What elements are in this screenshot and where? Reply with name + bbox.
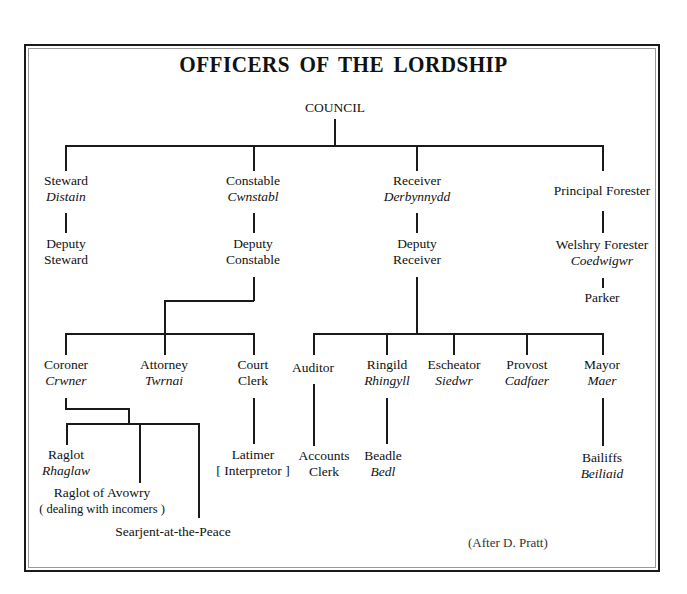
node-label: Court (238, 357, 269, 373)
connector-line (602, 278, 604, 288)
node-accounts-clerk: Accounts Clerk (299, 448, 350, 480)
connector-line (65, 145, 603, 147)
node-label: Constable (226, 252, 280, 268)
connector-line (66, 423, 68, 445)
node-deputy-receiver: Deputy Receiver (393, 236, 441, 268)
node-attorney: Attorney Twrnai (140, 357, 188, 389)
connector-line (602, 398, 604, 446)
node-label: Latimer (216, 447, 289, 463)
diagram-title: OFFICERS OF THE LORDSHIP (27, 52, 659, 78)
connector-line (334, 119, 336, 146)
connector-line (313, 333, 315, 355)
node-label: Auditor (292, 360, 334, 376)
connector-line (416, 277, 418, 334)
connector-line (164, 333, 166, 355)
node-bailiffs: Bailiffs Beiliaid (581, 450, 624, 482)
connector-line (65, 333, 254, 335)
connector-line (386, 333, 388, 355)
connector-line (198, 423, 200, 518)
connector-line (313, 333, 603, 335)
connector-line (65, 145, 67, 171)
connector-line (253, 333, 255, 355)
node-label: Parker (584, 290, 619, 306)
connector-line (164, 300, 254, 302)
node-label: Receiver (393, 252, 441, 268)
node-welsh-label: Cwnstabl (226, 189, 280, 205)
node-welsh-label: Bedl (364, 464, 401, 480)
node-label: Deputy (226, 236, 280, 252)
connector-line (139, 423, 141, 483)
node-ringild: Ringild Rhingyll (364, 357, 410, 389)
node-label: Searjent-at-the-Peace (115, 524, 230, 540)
node-welsh-label: Derbynnydd (384, 189, 451, 205)
connector-line (65, 333, 67, 355)
node-label: Deputy (44, 236, 88, 252)
node-provost: Provost Cadfaer (505, 357, 549, 389)
node-welshry-forester: Welshry Forester Coedwigwr (556, 237, 648, 269)
node-principal-forester: Principal Forester (554, 183, 650, 199)
node-label: Principal Forester (554, 183, 650, 199)
node-deputy-constable: Deputy Constable (226, 236, 280, 268)
node-label: Escheator (427, 357, 480, 373)
connector-line (253, 398, 255, 444)
connector-line (416, 213, 418, 233)
node-welsh-label: Coedwigwr (556, 253, 648, 269)
node-raglot-avowry: Raglot of Avowry ( dealing with incomers… (39, 485, 165, 517)
node-welsh-label: Twrnai (140, 373, 188, 389)
node-label: Raglot of Avowry (39, 485, 165, 501)
connector-line (65, 408, 129, 410)
node-label: Provost (505, 357, 549, 373)
connector-line (313, 384, 315, 446)
node-label: Accounts (299, 448, 350, 464)
node-mayor: Mayor Maer (584, 357, 620, 389)
node-receiver: Receiver Derbynnydd (384, 173, 451, 205)
connector-line (128, 408, 130, 424)
connector-line (602, 211, 604, 233)
node-label: Raglot (42, 447, 90, 463)
connector-line (66, 423, 199, 425)
node-deputy-steward: Deputy Steward (44, 236, 88, 268)
node-searjent: Searjent-at-the-Peace (115, 524, 230, 540)
connector-line (386, 398, 388, 444)
node-label: Clerk (299, 464, 350, 480)
node-label: Constable (226, 173, 280, 189)
node-constable: Constable Cwnstabl (226, 173, 280, 205)
node-label: Coroner (44, 357, 88, 373)
node-latimer: Latimer [ Interpretor ] (216, 447, 289, 479)
node-welsh-label: Cadfaer (505, 373, 549, 389)
node-note: [ Interpretor ] (216, 463, 289, 479)
connector-line (453, 333, 455, 355)
node-label: Attorney (140, 357, 188, 373)
node-steward: Steward Distain (44, 173, 88, 205)
node-label: Bailiffs (581, 450, 624, 466)
connector-line (526, 333, 528, 355)
node-council: COUNCIL (305, 100, 365, 116)
node-welsh-label: Crwner (44, 373, 88, 389)
node-label: Mayor (584, 357, 620, 373)
node-parker: Parker (584, 290, 619, 306)
node-welsh-label: Distain (44, 189, 88, 205)
node-label: Receiver (384, 173, 451, 189)
node-label: COUNCIL (305, 100, 365, 116)
node-label: Ringild (364, 357, 410, 373)
node-label: Welshry Forester (556, 237, 648, 253)
node-note: ( dealing with incomers ) (39, 501, 165, 517)
connector-line (602, 145, 604, 171)
node-welsh-label: Rhaglaw (42, 463, 90, 479)
source-credit: (After D. Pratt) (468, 535, 548, 551)
node-auditor: Auditor (292, 360, 334, 376)
connector-line (602, 333, 604, 355)
connector-line (253, 213, 255, 233)
node-welsh-label: Rhingyll (364, 373, 410, 389)
connector-line (164, 300, 166, 334)
connector-line (65, 213, 67, 233)
node-label: Beadle (364, 448, 401, 464)
node-beadle: Beadle Bedl (364, 448, 401, 480)
connector-line (253, 145, 255, 171)
node-label: Clerk (238, 373, 269, 389)
node-label: Steward (44, 252, 88, 268)
node-escheator: Escheator Siedwr (427, 357, 480, 389)
connector-line (416, 145, 418, 171)
node-label: Steward (44, 173, 88, 189)
node-raglot: Raglot Rhaglaw (42, 447, 90, 479)
